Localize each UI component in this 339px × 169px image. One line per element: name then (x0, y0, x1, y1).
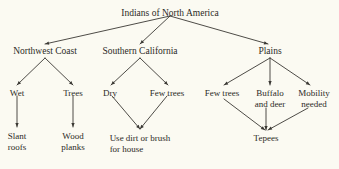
node-plains[interactable]: Plains (258, 46, 281, 57)
node-mobility-needed[interactable]: Mobility needed (298, 88, 330, 109)
node-wet[interactable]: Wet (10, 88, 24, 99)
node-few-trees-plains[interactable]: Few trees (205, 88, 240, 99)
node-southern-california[interactable]: Southern California (102, 46, 177, 57)
hierarchy-diagram: Indians of North America Northwest Coast… (0, 0, 339, 169)
node-trees[interactable]: Trees (63, 88, 83, 99)
node-northwest-coast[interactable]: Northwest Coast (13, 46, 77, 57)
node-tepees[interactable]: Tepees (254, 133, 279, 144)
node-use-dirt-or-brush-for-house[interactable]: Use dirt or brush for house (110, 133, 171, 154)
node-slant-roofs[interactable]: Slant roofs (8, 131, 27, 152)
node-root[interactable]: Indians of North America (121, 8, 218, 19)
node-buffalo-and-deer[interactable]: Buffalo and deer (255, 88, 286, 109)
node-wood-planks[interactable]: Wood planks (61, 131, 85, 152)
node-few-trees-southern-california[interactable]: Few trees (150, 88, 185, 99)
node-dry[interactable]: Dry (103, 88, 117, 99)
